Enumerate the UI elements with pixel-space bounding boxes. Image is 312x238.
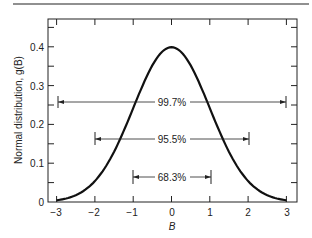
annotation-label: 95.5% [158, 134, 186, 145]
x-tick-label: −2 [88, 207, 100, 218]
annotation-68-3: 68.3% [133, 170, 211, 184]
y-tick-label: 0.1 [30, 158, 44, 169]
normal-distribution-chart: 0 0.1 0.2 0.3 0.4 −3 −2 −1 0 1 2 3 B Nor… [0, 0, 312, 238]
x-tick-label: −1 [126, 207, 138, 218]
x-tick-label: 2 [245, 207, 251, 218]
x-tick-label: 3 [284, 207, 290, 218]
x-tick-label: 1 [207, 207, 213, 218]
annotation-label: 68.3% [158, 172, 186, 183]
y-tick-label: 0.2 [30, 119, 44, 130]
annotation-label: 99.7% [158, 97, 186, 108]
y-axis-label: Normal distribution, g(B) [13, 56, 24, 164]
y-tick-label: 0.3 [30, 81, 44, 92]
y-tick-label: 0 [38, 197, 44, 208]
y-tick-label: 0.4 [30, 42, 44, 53]
x-axis-label: B [169, 221, 176, 232]
x-tick-label: −3 [50, 207, 62, 218]
x-tick-label: 0 [169, 207, 175, 218]
annotation-99-7: 99.7% [58, 96, 286, 108]
